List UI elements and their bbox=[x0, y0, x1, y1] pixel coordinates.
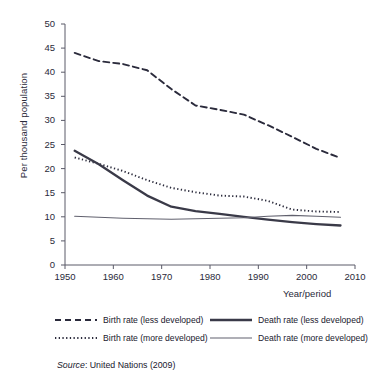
source-value: : United Nations (2009) bbox=[85, 360, 175, 370]
legend-label-death-rate-more-developed: Death rate (more developed) bbox=[258, 333, 368, 343]
series-line-3 bbox=[75, 215, 341, 219]
legend-entry-birth-rate-more-developed: Birth rate (more developed) bbox=[55, 333, 208, 343]
series-line-1 bbox=[75, 158, 341, 212]
data-series-group bbox=[75, 53, 341, 226]
series-line-2 bbox=[75, 151, 341, 226]
legend-swatch-dotted-icon bbox=[55, 334, 97, 342]
legend-label-death-rate-less-developed: Death rate (less developed) bbox=[258, 315, 364, 325]
source-label: Source bbox=[57, 360, 85, 370]
legend-label-birth-rate-more-developed: Birth rate (more developed) bbox=[103, 333, 208, 343]
legend-entry-death-rate-more-developed: Death rate (more developed) bbox=[210, 333, 368, 343]
legend-entry-birth-rate-less-developed: Birth rate (less developed) bbox=[55, 315, 203, 325]
legend-row-2: Birth rate (more developed) Death rate (… bbox=[0, 333, 386, 351]
chart-figure: Per thousand population Year/period 0510… bbox=[0, 0, 386, 391]
legend-swatch-dashed-icon bbox=[55, 316, 97, 324]
legend-row-1: Birth rate (less developed) Death rate (… bbox=[0, 315, 386, 333]
axis-lines bbox=[61, 24, 355, 269]
legend-entry-death-rate-less-developed: Death rate (less developed) bbox=[210, 315, 364, 325]
source-note: Source: United Nations (2009) bbox=[57, 360, 175, 370]
legend-swatch-solid-thin-icon bbox=[210, 334, 252, 342]
chart-legend: Birth rate (less developed) Death rate (… bbox=[0, 315, 386, 351]
legend-swatch-solid-thick-icon bbox=[210, 316, 252, 324]
series-line-0 bbox=[75, 53, 341, 158]
legend-label-birth-rate-less-developed: Birth rate (less developed) bbox=[103, 315, 203, 325]
